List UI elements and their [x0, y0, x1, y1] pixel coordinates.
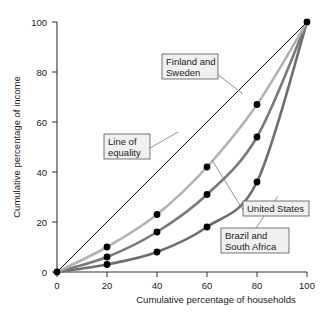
data-point-marker — [154, 249, 161, 256]
y-tick-label-80: 80 — [36, 67, 47, 78]
y-axis-title: Cumulative percentage of income — [11, 76, 22, 218]
y-tick-label-40: 40 — [36, 167, 47, 178]
data-point-marker — [204, 224, 211, 231]
callout-equality-line2: equality — [108, 147, 141, 158]
x-tick-label-100: 100 — [299, 280, 315, 291]
callout-finland-line1: Finland and — [166, 56, 216, 67]
data-point-marker — [154, 229, 161, 236]
data-point-marker — [204, 191, 211, 198]
x-tick-label-40: 40 — [152, 280, 163, 291]
leader-finland-sweden — [217, 74, 243, 94]
callout-brazil-line1: Brazil and — [225, 230, 267, 241]
x-axis-ticks — [57, 272, 307, 277]
y-axis-ticks — [52, 22, 57, 272]
x-tick-label-20: 20 — [102, 280, 113, 291]
data-point-marker — [54, 269, 61, 276]
data-point-marker — [304, 19, 311, 26]
y-tick-label-100: 100 — [31, 17, 47, 28]
data-point-marker — [154, 211, 161, 218]
callout-brazil-line2: South Africa — [225, 241, 277, 252]
data-point-marker — [254, 101, 261, 108]
y-tick-label-0: 0 — [42, 267, 47, 278]
callout-united-states[interactable]: United States — [243, 201, 309, 216]
x-axis-title: Cumulative percentage of households — [136, 294, 296, 305]
callout-brazil-south-africa[interactable]: Brazil and South Africa — [221, 228, 289, 253]
data-point-marker — [104, 244, 111, 251]
y-axis-tick-labels: 0 20 40 60 80 100 — [31, 17, 47, 278]
chart-canvas: 0 20 40 60 80 100 0 20 40 60 80 100 Cumu… — [0, 0, 334, 313]
x-axis-tick-labels: 0 20 40 60 80 100 — [54, 280, 315, 291]
callout-line-of-equality[interactable]: Line of equality — [104, 134, 150, 159]
callout-us-line1: United States — [247, 203, 304, 214]
leader-line-of-equality — [150, 132, 178, 148]
data-point-marker — [204, 164, 211, 171]
data-point-marker — [254, 179, 261, 186]
callout-finland-sweden[interactable]: Finland and Sweden — [162, 54, 218, 79]
y-tick-label-60: 60 — [36, 117, 47, 128]
data-point-marker — [104, 261, 111, 268]
callout-equality-line1: Line of — [108, 136, 137, 147]
data-point-marker — [254, 134, 261, 141]
data-point-marker — [104, 254, 111, 261]
x-tick-label-80: 80 — [252, 280, 263, 291]
y-tick-label-20: 20 — [36, 217, 47, 228]
x-tick-label-60: 60 — [202, 280, 213, 291]
lorenz-curve-chart: 0 20 40 60 80 100 0 20 40 60 80 100 Cumu… — [0, 0, 334, 313]
callout-finland-line2: Sweden — [166, 67, 200, 78]
x-tick-label-0: 0 — [54, 280, 59, 291]
